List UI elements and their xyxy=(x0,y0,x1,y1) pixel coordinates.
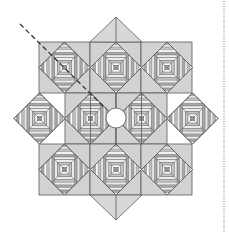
stripe xyxy=(50,103,53,134)
stripe xyxy=(47,159,50,180)
stripe xyxy=(157,50,178,53)
stripe xyxy=(154,52,157,83)
stripe xyxy=(131,159,134,180)
stripe xyxy=(52,80,78,83)
stripe xyxy=(177,154,180,185)
stripe xyxy=(27,131,53,134)
stripe xyxy=(182,101,203,104)
stripe xyxy=(103,154,106,185)
stripe xyxy=(77,157,80,183)
stripe xyxy=(52,154,55,185)
stripe xyxy=(152,103,155,134)
stripe xyxy=(180,103,183,134)
stripe xyxy=(24,106,27,132)
stripe xyxy=(49,157,52,183)
center-circle xyxy=(106,108,126,128)
stripe xyxy=(52,182,78,185)
stripe xyxy=(129,157,132,183)
stripe xyxy=(180,157,183,183)
stripe xyxy=(54,152,75,155)
stripe xyxy=(157,185,178,188)
stripe xyxy=(154,154,180,157)
stripe xyxy=(29,134,50,137)
stripe xyxy=(103,106,106,132)
quilt-diagram xyxy=(0,0,229,236)
stripe xyxy=(52,52,78,55)
stripe xyxy=(203,103,206,134)
stripe xyxy=(54,185,75,188)
stripe xyxy=(154,154,157,185)
stripe xyxy=(180,55,183,81)
stripe xyxy=(131,57,134,78)
stripe xyxy=(126,106,129,132)
stripe xyxy=(101,103,104,134)
stripe xyxy=(182,134,203,137)
stripe xyxy=(22,108,25,129)
stripe xyxy=(98,159,101,180)
stripe xyxy=(154,182,180,185)
log-cabin-block xyxy=(167,93,218,144)
stripe xyxy=(157,152,178,155)
stripe xyxy=(75,52,78,83)
stripe xyxy=(106,152,127,155)
stripe xyxy=(54,50,75,53)
stripe xyxy=(157,108,160,129)
stripe xyxy=(180,103,206,106)
stripe xyxy=(152,55,155,81)
stripe xyxy=(106,83,127,86)
stripe xyxy=(175,108,178,129)
stripe xyxy=(80,57,83,78)
stripe xyxy=(157,83,178,86)
stripe xyxy=(77,55,80,81)
stripe xyxy=(27,103,30,134)
stripe xyxy=(154,106,157,132)
stripe xyxy=(29,101,50,104)
stripe xyxy=(54,83,75,86)
stripe xyxy=(101,157,104,183)
stripe xyxy=(177,106,180,132)
stripe xyxy=(78,103,81,134)
stripe xyxy=(152,157,155,183)
stripe xyxy=(103,52,129,55)
stripe xyxy=(126,154,129,185)
stripe xyxy=(154,52,180,55)
stripe xyxy=(205,106,208,132)
stripe xyxy=(73,108,76,129)
stripe xyxy=(149,57,152,78)
stripe xyxy=(98,57,101,78)
log-cabin-block xyxy=(14,93,65,144)
stripe xyxy=(177,52,180,83)
stripe xyxy=(182,57,185,78)
stripe xyxy=(103,80,129,83)
stripe xyxy=(180,131,206,134)
stripe xyxy=(55,108,58,129)
stripe xyxy=(182,159,185,180)
stripe xyxy=(154,80,180,83)
stripe xyxy=(75,154,78,185)
stripe xyxy=(101,55,104,81)
stripe xyxy=(106,50,127,53)
stripe xyxy=(27,103,53,106)
stripe xyxy=(129,55,132,81)
stripe xyxy=(149,159,152,180)
stripe xyxy=(126,52,129,83)
stripe xyxy=(49,55,52,81)
stripe xyxy=(103,154,129,157)
stripe xyxy=(52,154,78,157)
stripe xyxy=(208,108,211,129)
stripe xyxy=(52,52,55,83)
stripe xyxy=(103,52,106,83)
stripe xyxy=(47,57,50,78)
stripe xyxy=(52,106,55,132)
stripe xyxy=(106,185,127,188)
stripe xyxy=(103,182,129,185)
stripe xyxy=(75,106,78,132)
stripe xyxy=(129,103,132,134)
stripe xyxy=(80,159,83,180)
